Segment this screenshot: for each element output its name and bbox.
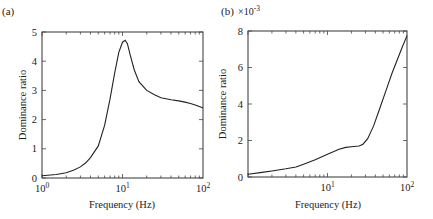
chart-panel-a: (a) 012345 100101102 Frequency (Hz) Domi… bbox=[2, 5, 210, 211]
chart-panel-b: (b) ×10-3 02468 101102 Frequency (Hz) Do… bbox=[217, 4, 414, 211]
line-series-b bbox=[248, 36, 407, 175]
y-tick-label: 2 bbox=[32, 114, 37, 125]
y-tick-label: 4 bbox=[238, 99, 244, 110]
y-tick-label: 8 bbox=[238, 26, 243, 37]
tick-label: 102 bbox=[400, 180, 415, 193]
x-axis-label-b: Frequency (Hz) bbox=[295, 199, 362, 211]
x-tick-labels-a: 100101102 bbox=[35, 181, 211, 194]
ticks-a bbox=[42, 32, 203, 178]
line-series-a bbox=[42, 40, 203, 176]
y-tick-label: 1 bbox=[32, 143, 37, 154]
tick-label: 100 bbox=[35, 181, 50, 194]
y-tick-label: 5 bbox=[32, 27, 37, 38]
figure: (a) 012345 100101102 Frequency (Hz) Domi… bbox=[0, 0, 433, 219]
plot-area-b bbox=[248, 31, 407, 177]
y-multiplier-label: ×10-3 bbox=[238, 4, 260, 17]
tick-label: 101 bbox=[115, 181, 130, 194]
y-tick-label: 0 bbox=[238, 172, 243, 183]
y-tick-label: 2 bbox=[238, 135, 243, 146]
y-axis-label-a: Dominance ratio bbox=[17, 70, 28, 140]
y-axis-label-b: Dominance ratio bbox=[217, 69, 228, 139]
y-tick-label: 0 bbox=[32, 173, 37, 184]
panel-label-a: (a) bbox=[2, 5, 15, 18]
y-tick-label: 6 bbox=[238, 62, 243, 73]
y-tick-label: 4 bbox=[32, 56, 38, 67]
tick-label: 102 bbox=[196, 181, 211, 194]
y-tick-label: 3 bbox=[32, 85, 37, 96]
x-tick-labels-b: 101102 bbox=[320, 180, 414, 193]
plot-area-a bbox=[42, 32, 203, 178]
ticks-b bbox=[248, 31, 407, 177]
y-tick-labels-a: 012345 bbox=[32, 27, 38, 184]
y-tick-labels-b: 02468 bbox=[238, 26, 244, 183]
panel-label-b: (b) bbox=[221, 5, 234, 18]
x-axis-label-a: Frequency (Hz) bbox=[89, 199, 156, 211]
tick-label: 101 bbox=[320, 180, 335, 193]
